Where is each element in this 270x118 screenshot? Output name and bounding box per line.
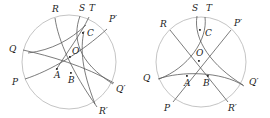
label-P: P [11, 77, 19, 87]
label-R: R [159, 19, 167, 29]
left-bounding-circle [22, 15, 116, 109]
label-A: A [183, 78, 191, 88]
label-R: R [51, 4, 59, 14]
label-B: B [67, 75, 75, 85]
point-C [82, 32, 84, 34]
label-Q-prime: Q′ [116, 84, 125, 94]
point-B [207, 75, 209, 77]
label-S: S [192, 3, 198, 13]
point-O [198, 60, 200, 62]
left-panel: R S T P′ C Q O A B P Q′ R′ [9, 3, 125, 116]
right-arc-Q-Qprime [158, 74, 244, 86]
left-curve-group [23, 16, 114, 107]
figure-canvas: R S T P′ C Q O A B P Q′ R′ [0, 0, 270, 118]
label-T: T [206, 3, 213, 13]
label-Q: Q [143, 73, 151, 83]
label-S: S [79, 3, 85, 13]
label-C: C [205, 28, 212, 38]
left-arc-C-lower [82, 31, 95, 104]
label-O: O [72, 46, 80, 56]
label-T: T [89, 3, 96, 13]
label-P-prime: P′ [108, 14, 117, 24]
label-Q: Q [9, 44, 17, 54]
label-Q-prime: Q′ [249, 77, 258, 87]
label-A: A [53, 70, 61, 80]
right-bounding-circle [156, 17, 246, 107]
label-O: O [196, 48, 204, 58]
label-B: B [202, 78, 210, 88]
label-P-prime: P′ [233, 18, 242, 28]
point-B [70, 72, 72, 74]
point-C [199, 29, 201, 31]
label-P: P [163, 103, 171, 113]
right-panel: S T R P′ C O Q A B Q′ P R′ [143, 3, 258, 113]
label-C: C [87, 28, 94, 38]
left-arc-T-A [56, 17, 89, 70]
label-R-prime: R′ [98, 106, 108, 116]
point-O [69, 56, 71, 58]
point-A [186, 75, 188, 77]
geometry-figure: R S T P′ C Q O A B P Q′ R′ [0, 0, 270, 118]
right-line-R-Rprime [170, 30, 228, 102]
label-R-prime: R′ [227, 103, 237, 113]
